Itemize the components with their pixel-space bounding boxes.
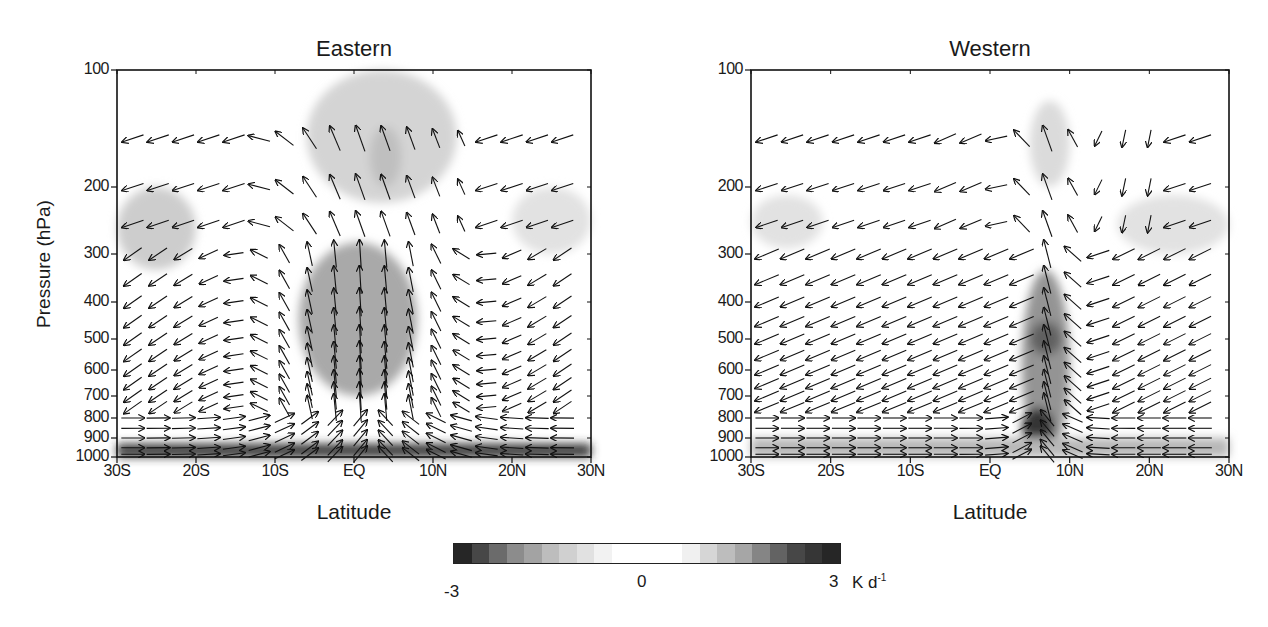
y-tick-label: 500 (683, 329, 743, 347)
shading-region (370, 127, 402, 187)
colorbar-segment (507, 544, 525, 563)
x-tick-label: 30N (1204, 462, 1254, 480)
colorbar-segment (717, 544, 735, 563)
colorbar-segment (489, 544, 507, 563)
x-tick-label: 30S (92, 462, 142, 480)
y-tick-label: 100 (49, 60, 109, 78)
x-tick-label: 10S (885, 462, 935, 480)
colorbar-max-label: 3 (829, 572, 838, 592)
right-plot-area (751, 70, 1229, 457)
x-tick-label: EQ (965, 462, 1015, 480)
colorbar-segment (454, 544, 472, 563)
colorbar-segment (752, 544, 770, 563)
colorbar-segment (559, 544, 577, 563)
colorbar-segment (682, 544, 700, 563)
x-tick-label: 30N (566, 462, 616, 480)
x-tick-label: EQ (329, 462, 379, 480)
colorbar-segment (524, 544, 542, 563)
y-tick-label: 700 (683, 386, 743, 404)
colorbar-segment (612, 544, 630, 563)
y-tick-label: 200 (683, 177, 743, 195)
colorbar (453, 543, 841, 564)
colorbar-segment (735, 544, 753, 563)
colorbar-segment (647, 544, 665, 563)
left-x-axis-label: Latitude (254, 500, 454, 524)
colorbar-mid-label: 0 (637, 572, 646, 592)
right-panel-title: Western (840, 36, 1140, 62)
y-tick-label: 900 (49, 428, 109, 446)
right-x-axis-label: Latitude (890, 500, 1090, 524)
x-tick-label: 20S (806, 462, 856, 480)
shading-region (299, 243, 418, 396)
y-tick-label: 800 (49, 408, 109, 426)
shading-region (751, 195, 823, 248)
left-panel-title: Eastern (204, 36, 504, 62)
colorbar-unit-sup: -1 (878, 572, 887, 583)
y-tick-label: 500 (49, 329, 109, 347)
x-tick-label: 10S (250, 462, 300, 480)
y-tick-label: 600 (49, 360, 109, 378)
y-tick-label: 800 (683, 408, 743, 426)
colorbar-segment (577, 544, 595, 563)
y-tick-label: 300 (683, 244, 743, 262)
colorbar-segment (542, 544, 560, 563)
y-tick-label: 700 (49, 386, 109, 404)
colorbar-segment (594, 544, 612, 563)
x-tick-label: 30S (726, 462, 776, 480)
y-tick-label: 400 (49, 292, 109, 310)
left-plot-area (117, 70, 591, 457)
y-tick-label: 900 (683, 428, 743, 446)
x-tick-label: 20N (487, 462, 537, 480)
colorbar-unit-text: K d (852, 573, 878, 592)
y-tick-label: 600 (683, 360, 743, 378)
colorbar-unit: K d-1 (852, 572, 886, 593)
shading-region (117, 187, 196, 270)
y-tick-label: 200 (49, 177, 109, 195)
x-tick-label: 20N (1124, 462, 1174, 480)
colorbar-segment (770, 544, 788, 563)
y-tick-label: 300 (49, 244, 109, 262)
y-tick-label: 400 (683, 292, 743, 310)
colorbar-segment (787, 544, 805, 563)
x-tick-label: 10N (1045, 462, 1095, 480)
colorbar-segment (822, 544, 840, 563)
colorbar-segment (665, 544, 683, 563)
shading-region (512, 187, 591, 254)
x-tick-label: 20S (171, 462, 221, 480)
wind-vectors (755, 126, 1212, 463)
colorbar-segment (472, 544, 490, 563)
colorbar-segment (700, 544, 718, 563)
colorbar-segment (805, 544, 823, 563)
y-tick-label: 100 (683, 60, 743, 78)
colorbar-segment (629, 544, 647, 563)
x-tick-label: 10N (408, 462, 458, 480)
colorbar-min-label: -3 (444, 582, 459, 602)
